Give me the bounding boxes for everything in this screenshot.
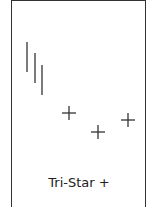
pattern-caption: Tri-Star + <box>0 175 154 190</box>
